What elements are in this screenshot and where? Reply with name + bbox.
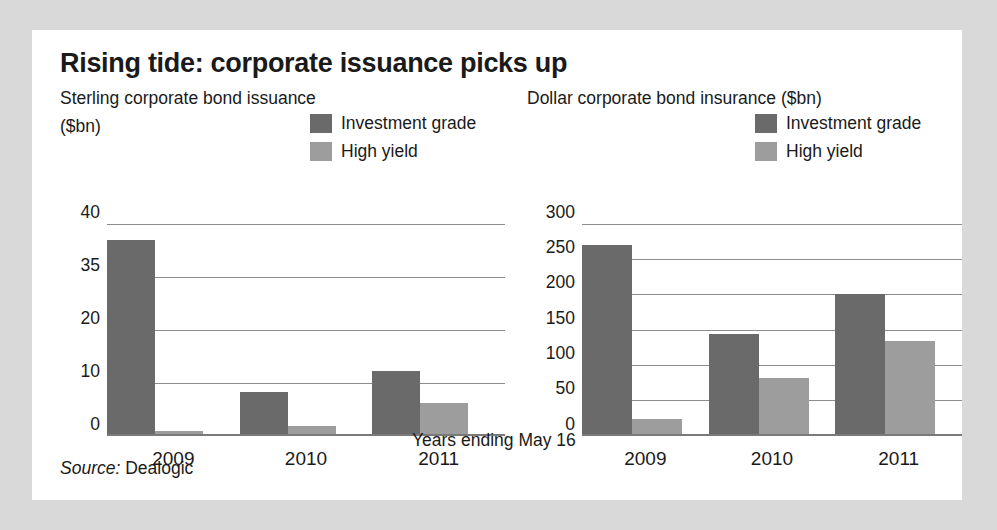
bar-group-2011: [372, 224, 505, 434]
legend-item-high-yield: High yield: [310, 138, 476, 164]
ytick-dollar-2: 200: [527, 274, 575, 295]
bar-2010-high-yield: [759, 378, 809, 434]
legend-swatch-high-yield-icon: [755, 142, 777, 161]
chart-panel-dollar: Dollar corporate bond insurance ($bn) In…: [527, 88, 962, 478]
legend-label-investment-grade: Investment grade: [786, 114, 921, 133]
bar-2010-high-yield: [288, 426, 336, 434]
legend-item-investment-grade: Investment grade: [310, 110, 476, 136]
panel-subtitle-sterling: Sterling corporate bond issuance: [60, 88, 316, 109]
page-title: Rising tide: corporate issuance picks up: [60, 48, 567, 79]
axis-baseline-dollar: [582, 434, 962, 436]
chart-panel-sterling: Sterling corporate bond issuance ($bn) I…: [60, 88, 505, 478]
ytick-dollar-1: 250: [527, 239, 575, 260]
source-value: Dealogic: [125, 458, 193, 478]
bar-group-2009: [582, 224, 709, 434]
bar-group-2010: [240, 224, 373, 434]
bar-2010-investment-grade: [240, 392, 288, 434]
legend-swatch-investment-grade-icon: [310, 114, 332, 133]
bar-2009-high-yield: [632, 419, 682, 434]
bar-group-2011: [835, 224, 962, 434]
source-label: Source:: [60, 458, 120, 478]
xlabel-sterling-2010: 2010: [240, 448, 373, 470]
bar-2009-investment-grade: [582, 245, 632, 434]
bar-2011-high-yield: [885, 341, 935, 434]
legend-swatch-high-yield-icon: [310, 142, 332, 161]
bars-sterling: [107, 224, 505, 434]
chart-screenshot: Rising tide: corporate issuance picks up…: [0, 0, 997, 530]
legend-label-high-yield: High yield: [786, 142, 863, 161]
bar-2010-investment-grade: [709, 334, 759, 434]
bar-group-2010: [709, 224, 836, 434]
plot-area-dollar: 300 250 200 150 100 50 0: [527, 224, 962, 436]
legend-sterling: Investment grade High yield: [310, 110, 476, 166]
legend-swatch-investment-grade-icon: [755, 114, 777, 133]
bar-2011-investment-grade: [835, 294, 885, 434]
legend-dollar: Investment grade High yield: [755, 110, 921, 166]
ytick-sterling-4: 0: [60, 416, 100, 437]
ytick-sterling-0: 40: [60, 204, 100, 225]
panel-units-sterling: ($bn): [60, 116, 101, 137]
ytick-dollar-5: 50: [527, 380, 575, 401]
bar-2009-investment-grade: [107, 240, 155, 434]
xlabel-sterling-2011: 2011: [372, 448, 505, 470]
xlabel-dollar-2011: 2011: [835, 448, 962, 470]
bar-group-2009: [107, 224, 240, 434]
plot-area-sterling: 40 35 20 10 0: [60, 224, 505, 436]
ytick-sterling-3: 10: [60, 363, 100, 384]
xlabels-dollar: 2009 2010 2011: [582, 448, 962, 470]
ytick-dollar-0: 300: [527, 204, 575, 225]
x-axis-footnote: Years ending May 16: [412, 430, 576, 451]
source-note: Source: Dealogic: [60, 458, 193, 479]
panel-subtitle-dollar: Dollar corporate bond insurance ($bn): [527, 88, 822, 109]
xlabel-dollar-2009: 2009: [582, 448, 709, 470]
legend-item-investment-grade: Investment grade: [755, 110, 921, 136]
bars-dollar: [582, 224, 962, 434]
chart-card: Rising tide: corporate issuance picks up…: [32, 30, 962, 500]
legend-item-high-yield: High yield: [755, 138, 921, 164]
legend-label-investment-grade: Investment grade: [341, 114, 476, 133]
ytick-sterling-2: 20: [60, 310, 100, 331]
ytick-sterling-1: 35: [60, 257, 100, 278]
ytick-dollar-3: 150: [527, 310, 575, 331]
bar-2011-investment-grade: [372, 371, 420, 434]
xlabel-dollar-2010: 2010: [709, 448, 836, 470]
ytick-dollar-4: 100: [527, 345, 575, 366]
legend-label-high-yield: High yield: [341, 142, 418, 161]
bar-2009-high-yield: [155, 431, 203, 434]
